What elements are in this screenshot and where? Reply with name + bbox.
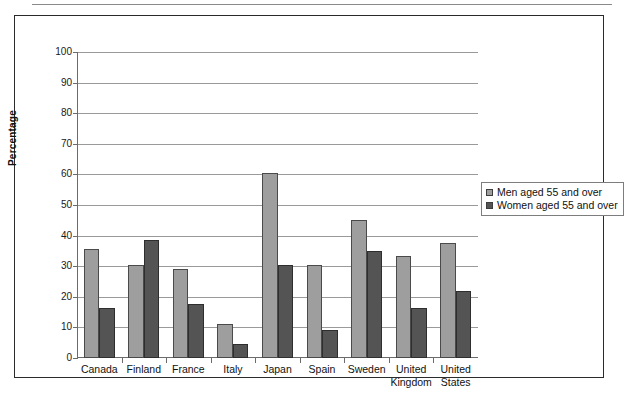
legend-item: Men aged 55 and over xyxy=(486,186,618,199)
chart-figure-frame: Percentage 0102030405060708090100 Canada… xyxy=(14,15,604,378)
y-tick-mark-70 xyxy=(73,144,78,145)
y-tick-label-10: 10 xyxy=(61,322,72,332)
gridline-100 xyxy=(78,52,478,53)
y-axis-title: Percentage xyxy=(7,110,18,166)
x-tick-label: Italy xyxy=(211,363,256,376)
x-tick-label: France xyxy=(166,363,211,376)
gridline-20 xyxy=(78,297,478,298)
x-tick-label: United States xyxy=(433,363,478,388)
y-tick-mark-80 xyxy=(73,113,78,114)
top-divider-rule xyxy=(32,4,612,5)
y-tick-label-0: 0 xyxy=(66,353,72,363)
x-tick-label: Japan xyxy=(255,363,300,376)
gridline-70 xyxy=(78,144,478,145)
plot-area xyxy=(77,52,478,358)
y-tick-mark-20 xyxy=(73,297,78,298)
y-tick-label-80: 80 xyxy=(61,108,72,118)
y-tick-mark-40 xyxy=(73,236,78,237)
y-tick-mark-90 xyxy=(73,83,78,84)
gridline-50 xyxy=(78,205,478,206)
y-tick-label-100: 100 xyxy=(55,47,72,57)
y-axis-tick-labels: 0102030405060708090100 xyxy=(47,52,72,358)
legend-label: Men aged 55 and over xyxy=(497,187,602,198)
gridline-30 xyxy=(78,266,478,267)
gridline-80 xyxy=(78,113,478,114)
y-tick-mark-100 xyxy=(73,52,78,53)
gridline-90 xyxy=(78,83,478,84)
y-tick-mark-30 xyxy=(73,266,78,267)
y-tick-label-60: 60 xyxy=(61,169,72,179)
y-tick-label-30: 30 xyxy=(61,261,72,271)
y-tick-mark-50 xyxy=(73,205,78,206)
legend-item: Women aged 55 and over xyxy=(486,199,618,212)
gridline-40 xyxy=(78,236,478,237)
y-tick-mark-10 xyxy=(73,327,78,328)
x-axis-tick-labels: CanadaFinlandFranceItalyJapanSpainSweden… xyxy=(77,363,478,394)
gridline-10 xyxy=(78,327,478,328)
legend-label: Women aged 55 and over xyxy=(497,200,618,211)
x-tick-label: Spain xyxy=(300,363,345,376)
y-tick-label-70: 70 xyxy=(61,139,72,149)
legend-swatch-icon xyxy=(486,189,493,196)
y-tick-label-40: 40 xyxy=(61,231,72,241)
x-tick-label: Canada xyxy=(77,363,122,376)
x-tick-label: United Kingdom xyxy=(389,363,434,388)
y-tick-label-90: 90 xyxy=(61,78,72,88)
x-tick-label: Sweden xyxy=(344,363,389,376)
y-tick-label-50: 50 xyxy=(61,200,72,210)
y-tick-mark-0 xyxy=(73,358,78,359)
gridline-60 xyxy=(78,174,478,175)
y-tick-mark-60 xyxy=(73,174,78,175)
y-tick-label-20: 20 xyxy=(61,292,72,302)
chart-legend: Men aged 55 and overWomen aged 55 and ov… xyxy=(481,182,624,216)
legend-swatch-icon xyxy=(486,202,493,209)
x-tick-label: Finland xyxy=(122,363,167,376)
